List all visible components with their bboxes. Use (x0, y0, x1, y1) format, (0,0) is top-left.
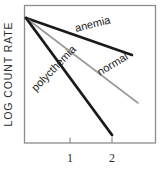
chart-figure: 1 2 LOG COUNT RATE anemia normal polycth… (0, 0, 164, 169)
x-tick-label-1: 1 (67, 151, 73, 165)
line-chart: 1 2 LOG COUNT RATE anemia normal polycth… (0, 0, 164, 169)
x-tick-label-2: 2 (109, 151, 115, 165)
y-axis-label: LOG COUNT RATE (2, 22, 14, 127)
